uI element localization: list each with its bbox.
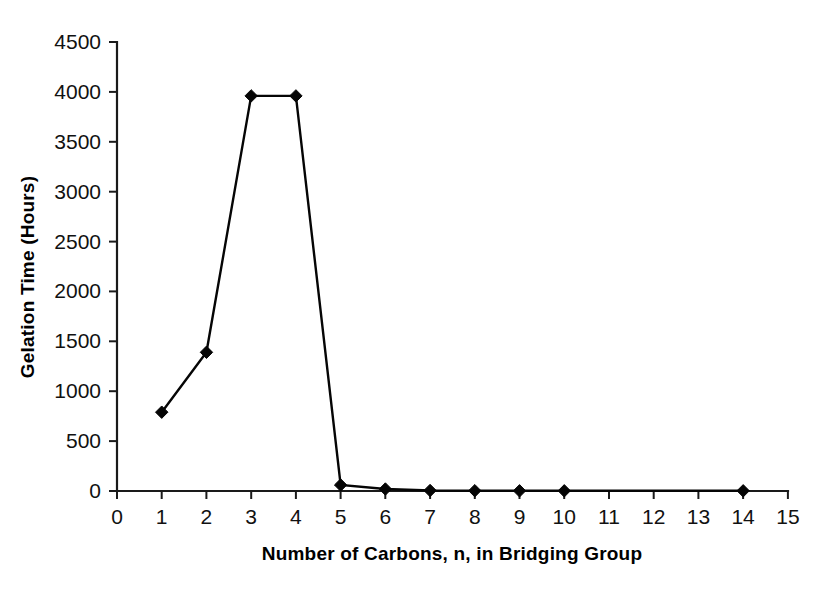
data-series-markers bbox=[156, 90, 750, 497]
y-tick-label: 3000 bbox=[54, 180, 101, 203]
x-tick-label: 0 bbox=[111, 505, 123, 528]
y-tick-label: 1500 bbox=[54, 329, 101, 352]
x-tick-label: 8 bbox=[469, 505, 481, 528]
y-tick-label: 0 bbox=[89, 479, 101, 502]
y-tick-label: 1000 bbox=[54, 379, 101, 402]
data-point-marker bbox=[290, 90, 302, 102]
data-point-marker bbox=[513, 485, 525, 497]
y-tick-label: 2500 bbox=[54, 230, 101, 253]
y-tick-label: 3500 bbox=[54, 130, 101, 153]
x-axis-title: Number of Carbons, n, in Bridging Group bbox=[262, 543, 642, 564]
x-tick-label: 10 bbox=[553, 505, 576, 528]
x-tick-label: 14 bbox=[731, 505, 755, 528]
y-tick-label: 500 bbox=[66, 429, 101, 452]
y-tick-label: 4000 bbox=[54, 80, 101, 103]
data-point-marker bbox=[379, 483, 391, 495]
data-series-line bbox=[162, 96, 743, 491]
x-axis-tick-labels: 0 1 2 3 4 5 6 7 8 9 10 11 12 13 14 15 bbox=[111, 505, 799, 528]
y-axis-ticks bbox=[109, 42, 117, 491]
data-point-marker bbox=[424, 484, 436, 496]
x-tick-label: 7 bbox=[424, 505, 436, 528]
y-tick-label: 4500 bbox=[54, 30, 101, 53]
data-point-marker bbox=[334, 479, 346, 491]
data-point-marker bbox=[737, 485, 749, 497]
x-axis-ticks bbox=[117, 491, 788, 499]
data-point-marker bbox=[245, 90, 257, 102]
x-tick-label: 11 bbox=[598, 505, 620, 528]
x-tick-label: 12 bbox=[642, 505, 665, 528]
x-tick-label: 15 bbox=[776, 505, 799, 528]
line-chart-canvas: 0 500 1000 1500 2000 2500 3000 3500 4000… bbox=[0, 0, 828, 592]
x-tick-label: 9 bbox=[514, 505, 526, 528]
x-tick-label: 2 bbox=[201, 505, 213, 528]
x-tick-label: 3 bbox=[245, 505, 257, 528]
y-axis-title: Gelation Time (Hours) bbox=[17, 176, 38, 378]
chart-figure: 0 500 1000 1500 2000 2500 3000 3500 4000… bbox=[0, 0, 828, 592]
x-tick-label: 4 bbox=[290, 505, 302, 528]
x-tick-label: 13 bbox=[687, 505, 710, 528]
y-axis-tick-labels: 0 500 1000 1500 2000 2500 3000 3500 4000… bbox=[54, 30, 101, 502]
x-tick-label: 5 bbox=[335, 505, 347, 528]
data-point-marker bbox=[469, 485, 481, 497]
data-point-marker bbox=[558, 485, 570, 497]
y-tick-label: 2000 bbox=[54, 279, 101, 302]
x-tick-label: 6 bbox=[379, 505, 391, 528]
x-tick-label: 1 bbox=[156, 505, 168, 528]
